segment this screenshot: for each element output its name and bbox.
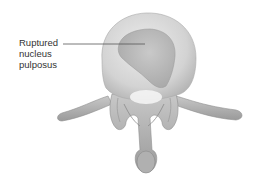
label-line-1: Ruptured bbox=[19, 37, 58, 48]
vertebral-processes bbox=[58, 94, 243, 173]
label-line-3: pulposus bbox=[19, 59, 58, 70]
vertebra-illustration bbox=[0, 0, 264, 180]
label-line-2: nucleus bbox=[19, 48, 58, 59]
diagram: Ruptured nucleus pulposus bbox=[0, 0, 264, 180]
label-ruptured-nucleus-pulposus: Ruptured nucleus pulposus bbox=[19, 37, 58, 70]
